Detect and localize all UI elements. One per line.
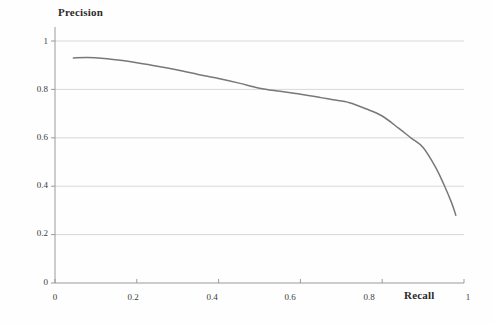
gridlines-group [55, 41, 464, 235]
axis-lines-group [55, 27, 464, 283]
axis-ticks-group [51, 41, 464, 283]
data-series-line [73, 57, 455, 215]
precision-recall-chart: Precision Recall 1 0.8 0.6 0.4 0.2 0 0 0… [0, 0, 493, 324]
plot-area [0, 0, 493, 324]
